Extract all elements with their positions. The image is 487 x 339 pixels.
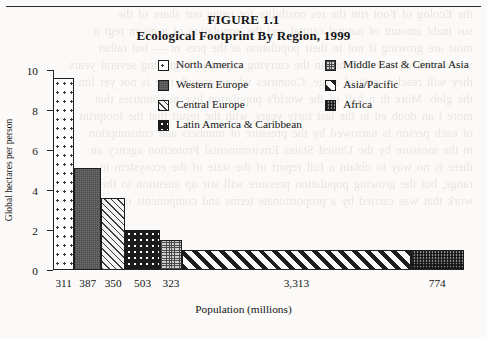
figure-title: Ecological Footprint By Region, 1999 bbox=[0, 28, 487, 44]
bar-asia-pacific bbox=[182, 250, 410, 270]
x-axis-tick-label: 350 bbox=[101, 278, 125, 289]
bar-north-america bbox=[53, 78, 74, 270]
x-axis-tick-label: 387 bbox=[74, 278, 101, 289]
x-axis-tick-label: 323 bbox=[160, 278, 182, 289]
x-axis-tick-label: 311 bbox=[53, 278, 74, 289]
x-axis-tick-label: 503 bbox=[125, 278, 160, 289]
figure-title-block: FIGURE 1.1 Ecological Footprint By Regio… bbox=[0, 12, 487, 43]
bar-africa bbox=[411, 250, 464, 270]
bar-middle-east-central-asia bbox=[160, 240, 182, 270]
x-axis bbox=[53, 269, 464, 270]
y-axis-tick-label: 8 bbox=[32, 106, 38, 117]
x-axis-tick-label: 3,313 bbox=[182, 278, 410, 289]
bar-latin-america-caribbean bbox=[125, 230, 160, 270]
x-axis-tick-labels: 3113873505033233,313774 bbox=[53, 278, 464, 292]
legend-item-label: North America bbox=[176, 59, 243, 70]
y-axis-tick-label: 0 bbox=[32, 266, 38, 277]
y-axis-label: Global hectares per person bbox=[4, 119, 14, 222]
bar-series bbox=[53, 70, 464, 270]
x-axis-label: Population (millions) bbox=[0, 303, 487, 315]
legend-swatch-icon bbox=[325, 60, 336, 71]
y-axis-tick-label: 2 bbox=[32, 226, 38, 237]
bar-central-europe bbox=[101, 198, 125, 270]
figure-number: FIGURE 1.1 bbox=[0, 12, 487, 28]
x-axis-tick-label: 774 bbox=[411, 278, 464, 289]
plot-area: Global hectares per person 0246810 bbox=[53, 70, 464, 270]
y-axis-tick-label: 4 bbox=[32, 186, 38, 197]
y-axis-tick-label: 6 bbox=[32, 146, 38, 157]
y-axis-tick-label: 10 bbox=[27, 66, 38, 77]
y-axis-tick: 0 bbox=[47, 270, 53, 271]
bar-western-europe bbox=[74, 168, 101, 270]
figure-page: FIGURE 1.1 Ecological Footprint By Regio… bbox=[0, 0, 487, 339]
top-rule bbox=[6, 6, 481, 7]
legend-swatch-icon bbox=[158, 60, 169, 71]
legend-item-label: Middle East & Central Asia bbox=[343, 59, 469, 70]
